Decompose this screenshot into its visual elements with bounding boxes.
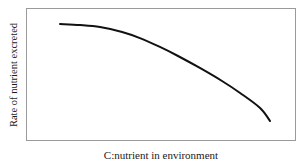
chart-figure: Rate of nutrient excreted C:nutrient in …: [0, 0, 306, 166]
plot-frame: [26, 8, 296, 141]
x-axis-label: C:nutrient in environment: [26, 149, 296, 162]
y-axis-label-text: Rate of nutrient excreted: [9, 22, 20, 126]
y-axis-label: Rate of nutrient excreted: [6, 8, 22, 141]
